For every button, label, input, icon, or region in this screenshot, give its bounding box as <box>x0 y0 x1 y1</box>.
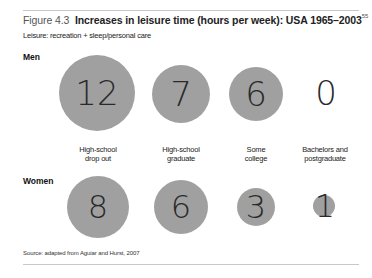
category-label-some-college: Some college <box>216 145 296 163</box>
footnote-ref: 55 <box>362 13 368 19</box>
top-rule <box>23 10 359 11</box>
figure-subtitle: Leisure: recreation + sleep/personal car… <box>23 31 151 40</box>
bottom-rule <box>23 264 359 265</box>
category-label-hs-dropout: High-school drop out <box>58 145 138 163</box>
figure-label: Figure 4.3 <box>23 14 69 26</box>
figure-title: Figure 4.3 Increases in leisure time (ho… <box>23 14 368 26</box>
value-men-hs-dropout: 12 <box>75 76 118 110</box>
source-note: Source: adapted from Aguiar and Hurst, 2… <box>23 250 139 256</box>
value-women-hs-graduate: 6 <box>171 191 191 223</box>
category-label-hs-graduate: High-school graduate <box>141 145 221 163</box>
value-men-bachelors: 0 <box>315 76 337 110</box>
value-men-some-college: 6 <box>245 77 267 111</box>
category-label-bachelors: Bachelors and postgraduate <box>285 145 365 163</box>
figure-title-text: Increases in leisure time (hours per wee… <box>75 14 362 26</box>
row-label-men: Men <box>23 52 40 62</box>
value-women-some-college: 3 <box>246 191 266 223</box>
value-men-hs-graduate: 7 <box>170 77 192 111</box>
value-women-bachelors: 1 <box>315 190 335 222</box>
row-label-women: Women <box>23 176 54 186</box>
value-women-hs-dropout: 8 <box>88 191 108 223</box>
